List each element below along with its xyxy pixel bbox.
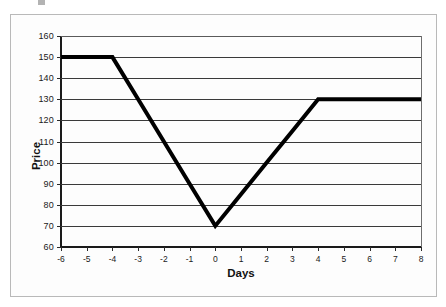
y-tick-label-90: 90 — [44, 179, 54, 189]
x-tick-mark-1 — [241, 247, 242, 251]
y-tick-label-100: 100 — [38, 158, 54, 168]
y-tick-label-110: 110 — [39, 137, 54, 147]
y-tick-label-70: 70 — [44, 221, 54, 231]
x-tick-label--4: -4 — [109, 254, 117, 264]
x-tick-mark-4 — [318, 247, 319, 251]
x-tick-mark-7 — [395, 247, 396, 251]
x-tick-label--3: -3 — [134, 254, 142, 264]
x-tick-mark-3 — [292, 247, 293, 251]
price-series-line — [61, 57, 421, 226]
clipped-text-artifact — [38, 0, 45, 5]
x-tick-mark-5 — [344, 247, 345, 251]
y-tick-label-80: 80 — [44, 200, 54, 210]
y-tick-label-130: 130 — [38, 94, 54, 104]
y-tick-label-160: 160 — [38, 31, 54, 41]
x-tick-label-2: 2 — [264, 254, 269, 264]
x-tick-label--5: -5 — [83, 254, 91, 264]
x-tick-label-3: 3 — [290, 254, 295, 264]
y-tick-label-150: 150 — [38, 52, 54, 62]
x-tick-label-4: 4 — [316, 254, 321, 264]
x-tick-label--6: -6 — [57, 254, 65, 264]
x-axis-title: Days — [61, 267, 421, 279]
x-tick-label-8: 8 — [419, 254, 424, 264]
x-tick-label-5: 5 — [341, 254, 346, 264]
chart-inner: Price 16015014013012011010090807060 -6-5… — [11, 15, 436, 296]
x-tick-label-7: 7 — [393, 254, 398, 264]
x-tick-label--2: -2 — [160, 254, 168, 264]
x-tick-mark--2 — [164, 247, 165, 251]
x-tick-label-6: 6 — [367, 254, 372, 264]
x-tick-mark-0 — [215, 247, 216, 251]
x-tick-label-0: 0 — [213, 254, 218, 264]
series-line-chart — [61, 36, 421, 247]
y-tick-label-140: 140 — [38, 73, 54, 83]
x-tick-mark-2 — [267, 247, 268, 251]
plot-right-edge — [421, 36, 422, 247]
x-tick-mark--5 — [87, 247, 88, 251]
y-tick-label-60: 60 — [44, 242, 54, 252]
x-tick-mark-6 — [370, 247, 371, 251]
x-tick-mark--6 — [61, 247, 62, 251]
x-tick-label--1: -1 — [186, 254, 194, 264]
chart-frame: Price 16015014013012011010090807060 -6-5… — [10, 14, 437, 297]
y-tick-label-120: 120 — [38, 115, 54, 125]
x-tick-label-1: 1 — [239, 254, 244, 264]
x-tick-mark--4 — [112, 247, 113, 251]
plot-area: 16015014013012011010090807060 -6-5-4-3-2… — [61, 36, 421, 247]
x-tick-mark--1 — [190, 247, 191, 251]
x-tick-mark-8 — [421, 247, 422, 251]
x-tick-mark--3 — [138, 247, 139, 251]
